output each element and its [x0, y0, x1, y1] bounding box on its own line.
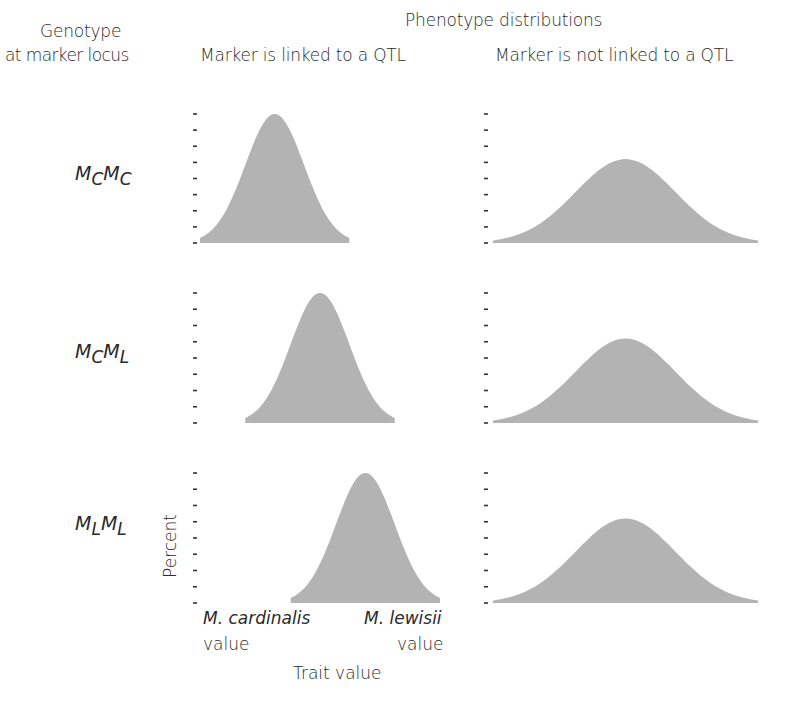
distribution-curve [245, 293, 394, 423]
panel-mcml-linked [193, 293, 395, 423]
panel-mcml-not-linked [484, 293, 758, 423]
panel-mlml-not-linked [484, 473, 758, 603]
panel-mcmc-not-linked [484, 114, 758, 243]
distribution-curve [200, 114, 349, 243]
distribution-plots [0, 0, 798, 715]
panel-mcmc-linked [193, 114, 349, 243]
panel-mlml-linked [193, 473, 440, 603]
distribution-curve [291, 473, 440, 603]
distribution-curve [493, 339, 758, 424]
distribution-curve [493, 519, 758, 604]
distribution-curve [493, 159, 758, 243]
